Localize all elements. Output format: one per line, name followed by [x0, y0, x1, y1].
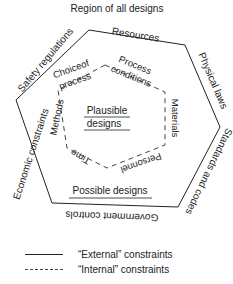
design-constraints-diagram: Region of all designs Resources Physical… [0, 0, 233, 284]
svg-text:designs: designs [87, 118, 121, 129]
legend-external: “External” constraints [25, 249, 172, 260]
legend-internal-label: “Internal” constraints [78, 264, 169, 275]
outer-label-standards-codes: Standards and codes [183, 127, 233, 217]
svg-text:Plausible: Plausible [87, 105, 128, 116]
solid-line-swatch [25, 254, 63, 255]
svg-text:Possible designs: Possible designs [72, 185, 147, 196]
inner-label-process-conditions: Process conditions [109, 53, 153, 89]
outer-label-resources: Resources [111, 25, 160, 43]
legend-internal: “Internal” constraints [25, 264, 169, 275]
possible-designs-label: Possible designs [69, 185, 152, 198]
legend-external-label: “External” constraints [78, 249, 172, 260]
diagram-title: Region of all designs [71, 3, 164, 14]
outer-label-government-controls: Government controls [65, 209, 158, 223]
dashed-line-swatch [25, 269, 63, 270]
inner-label-methods: Methods [47, 98, 65, 136]
plausible-designs-label: Plausible designs [84, 105, 130, 130]
inner-label-materials: Materials [170, 99, 181, 138]
outer-label-economic-constraints: Economic constraints [11, 107, 51, 201]
inner-label-choice-of-process: Choiceof process [51, 57, 92, 92]
outer-label-physical-laws: Physical laws [196, 51, 230, 111]
